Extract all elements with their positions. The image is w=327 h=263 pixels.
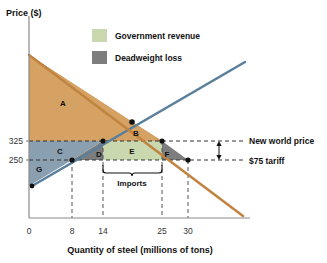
y-tick-label-325: 325 [9, 136, 23, 146]
region-label-e: E [129, 147, 135, 156]
tariff-label: $75 tariff [249, 156, 285, 166]
marker-q30 [185, 157, 190, 162]
y-tick-label-250: 250 [9, 155, 23, 165]
region-label-a: A [60, 99, 66, 108]
new-world-price-label: New world price [249, 136, 314, 146]
y-axis-title: Price ($) [6, 8, 42, 18]
region-label-d: D [96, 150, 102, 159]
legend-label-deadweight-loss: Deadweight loss [115, 53, 182, 63]
legend-label-government-revenue: Government revenue [115, 31, 200, 41]
marker-q8 [69, 157, 74, 162]
region-label-c: C [57, 147, 63, 156]
x-tick-label-8: 8 [70, 226, 75, 236]
x-tick-label-30: 30 [183, 226, 193, 236]
marker-equilibrium [129, 119, 135, 125]
chart-svg: Price ($) Quantity of steel (millions of… [0, 0, 327, 263]
legend-swatch-government-revenue [92, 29, 107, 42]
tariff-supply-demand-chart: Price ($) Quantity of steel (millions of… [0, 0, 327, 263]
legend-swatch-deadweight-loss [92, 51, 107, 64]
x-tick-label-0: 0 [27, 226, 32, 236]
marker-q14 [100, 138, 105, 143]
region-label-f: F [165, 150, 170, 159]
x-tick-label-14: 14 [98, 226, 108, 236]
marker-supply-origin [30, 184, 35, 189]
region-label-b: B [133, 129, 139, 138]
x-axis-title: Quantity of steel (millions of tons) [67, 245, 213, 255]
marker-q25 [159, 138, 164, 143]
region-label-g: G [36, 165, 42, 174]
x-tick-label-25: 25 [157, 226, 167, 236]
imports-label: Imports [117, 179, 147, 188]
